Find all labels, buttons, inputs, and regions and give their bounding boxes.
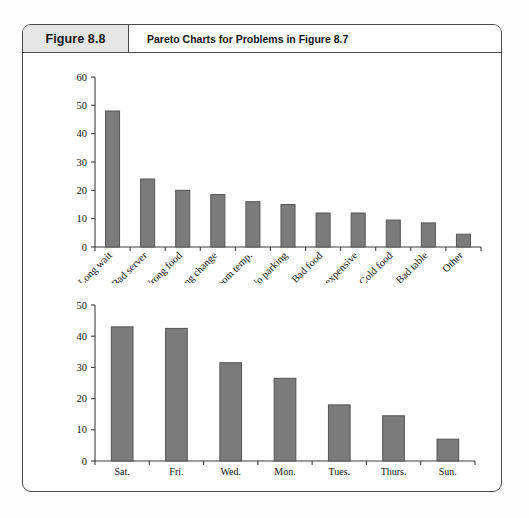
x-axis-tick-label: Thurs. [381,466,407,477]
x-axis-tick-label: Cold food [357,249,395,283]
figure-number-label: Figure 8.8 [45,32,105,46]
y-axis-tick-label: 50 [77,100,88,111]
bar [274,378,296,461]
bar [106,111,120,247]
y-axis-tick-label: 20 [77,393,88,404]
pareto-chart-problems: 0102030405060Long waitBad serverWrong fo… [23,53,503,283]
figure-number-cell: Figure 8.8 [23,25,129,52]
bar [437,439,459,461]
y-axis-tick-label: 0 [82,242,87,253]
y-axis-tick-label: 40 [77,128,88,139]
bar [211,195,225,247]
bar [220,363,242,461]
x-axis-tick-label: Fri. [169,466,183,477]
x-axis-tick-label: Sun. [439,466,457,477]
x-axis-tick-label: Bad food [289,249,325,283]
x-axis-tick-label: Other [440,249,465,274]
x-axis-tick-label: Tues. [328,466,350,477]
bar [246,202,260,247]
figure-header: Figure 8.8 Pareto Charts for Problems in… [23,25,501,53]
x-axis-tick-label: Wrong food [141,249,185,283]
pareto-chart-days: 01020304050Sat.Fri.Wed.Mon.Tues.Thurs.Su… [23,283,503,491]
x-axis-tick-label: Bad table [394,249,430,283]
y-axis-tick-label: 30 [77,362,88,373]
bar [421,223,435,247]
x-axis-tick-label: Sat. [115,466,130,477]
bar [328,405,350,461]
x-axis-tick-label: Long wait [76,250,114,283]
x-axis-tick-label: Bad server [109,249,149,283]
bar [111,327,133,461]
figure-title-label: Pareto Charts for Problems in Figure 8.7 [147,33,348,45]
y-axis-tick-label: 10 [77,424,88,435]
y-axis-tick-label: 40 [77,331,88,342]
x-axis-tick-label: Wed. [220,466,241,477]
bar [386,220,400,247]
bar [456,234,470,247]
figure-title-cell: Pareto Charts for Problems in Figure 8.7 [129,25,501,52]
y-axis-tick-label: 10 [77,213,88,224]
bar [166,328,188,461]
x-axis-tick-label: No parking [248,249,290,283]
y-axis-tick-label: 30 [77,157,88,168]
bar [383,416,405,461]
bar [281,205,295,248]
y-axis-tick-label: 50 [77,300,88,311]
y-axis-tick-label: 0 [82,456,87,467]
figure-card: Figure 8.8 Pareto Charts for Problems in… [22,24,502,492]
y-axis-tick-label: 60 [77,72,88,83]
bar [176,190,190,247]
x-axis-tick-label: Mon. [274,466,295,477]
x-axis-tick-label: Room temp. [210,250,254,283]
y-axis-tick-label: 20 [77,185,88,196]
figure-page: Figure 8.8 Pareto Charts for Problems in… [0,0,529,518]
bar [316,213,330,247]
bar [351,213,365,247]
bar [141,179,155,247]
